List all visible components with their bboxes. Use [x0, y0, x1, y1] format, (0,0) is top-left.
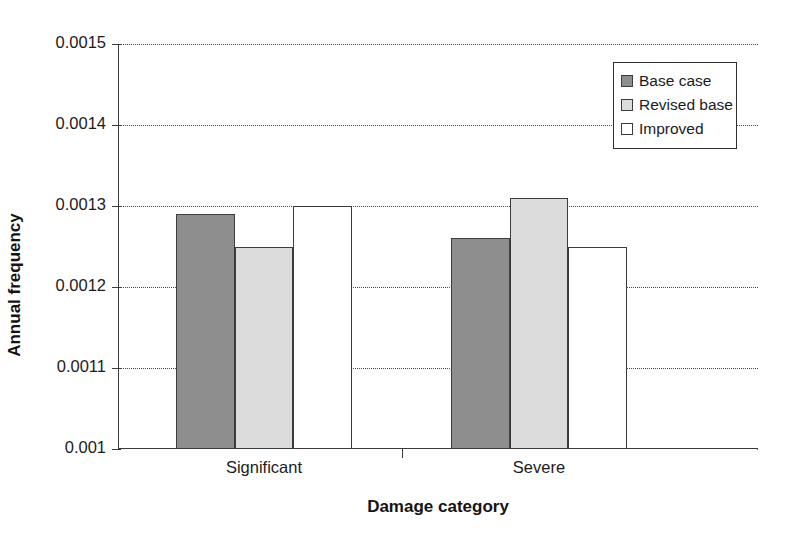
y-tick-label: 0.001: [10, 438, 106, 457]
y-tick-mark: [112, 287, 121, 288]
bar-severe-revised-base: [510, 198, 569, 449]
legend-item-label: Improved: [639, 120, 704, 138]
legend-item-label: Base case: [639, 72, 711, 90]
legend-swatch-icon: [621, 75, 633, 87]
y-tick-mark: [112, 449, 121, 450]
legend-item-base-case: Base case: [621, 69, 729, 93]
bar-significant-improved: [293, 206, 352, 449]
legend-item-revised-base: Revised base: [621, 93, 729, 117]
y-tick-mark: [112, 368, 121, 369]
y-tick-label: 0.0011: [10, 357, 106, 376]
chart-legend: Base caseRevised baseImproved: [613, 62, 737, 149]
bar-significant-base-case: [176, 214, 235, 449]
y-tick-mark: [112, 44, 121, 45]
bar-chart: Annual frequency 0.0010.00110.00120.0013…: [0, 0, 787, 550]
bar-severe-improved: [568, 247, 627, 450]
y-tick-label: 0.0014: [10, 114, 106, 133]
y-axis-title: Annual frequency: [0, 0, 30, 550]
legend-swatch-icon: [621, 99, 633, 111]
y-tick-label: 0.0012: [10, 276, 106, 295]
gridline: [118, 44, 758, 45]
y-tick-label: 0.0015: [10, 33, 106, 52]
y-tick-mark: [112, 125, 121, 126]
bar-significant-revised-base: [235, 247, 294, 450]
gridline: [118, 206, 758, 207]
x-category-label-severe: Severe: [449, 458, 629, 477]
legend-swatch-icon: [621, 123, 633, 135]
x-category-separator-tick: [402, 449, 403, 458]
x-category-label-significant: Significant: [174, 458, 354, 477]
x-axis-title: Damage category: [118, 497, 758, 523]
bar-severe-base-case: [451, 238, 510, 449]
y-tick-label: 0.0013: [10, 195, 106, 214]
legend-item-improved: Improved: [621, 117, 729, 141]
y-tick-mark: [112, 206, 121, 207]
legend-item-label: Revised base: [639, 96, 733, 114]
